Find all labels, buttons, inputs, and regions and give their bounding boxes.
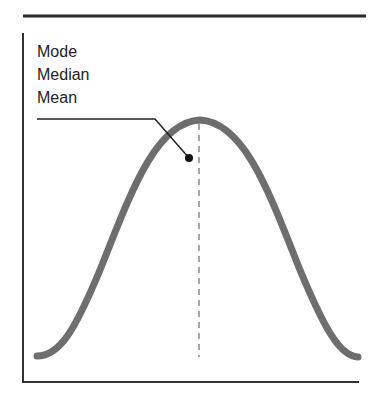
label-median: Median [37, 64, 89, 85]
label-mean: Mean [37, 87, 77, 108]
bell-curve [37, 120, 358, 357]
leader-dot [185, 154, 193, 162]
label-mode: Mode [37, 41, 77, 62]
